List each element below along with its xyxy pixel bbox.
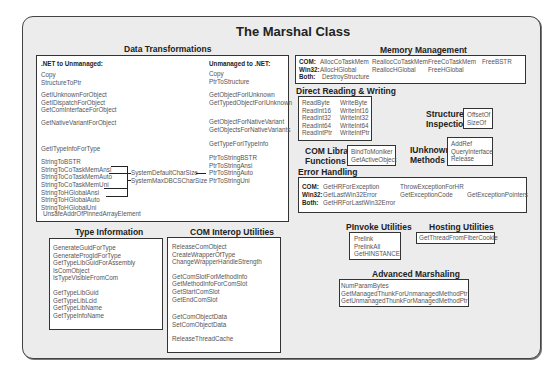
- list-item: GetTypeLibGuid: [53, 289, 135, 297]
- list-item: GetObjectForNativeVariant: [209, 118, 292, 126]
- list-item: GetTypeForITypeInfo: [209, 140, 292, 148]
- list-item: WriteIntPtr: [340, 129, 370, 137]
- list-item: Copy: [209, 70, 292, 78]
- iunknown-heading: IUnknown Methods: [410, 145, 451, 165]
- list-item: GetITypeInfoForType: [41, 145, 117, 153]
- list-item: NumParamBytes: [341, 282, 468, 290]
- hosting-heading: Hosting Utilities: [429, 222, 494, 232]
- unmanaged-to-net-list: Copy PtrToStructure GetObjectForIUnknown…: [209, 70, 292, 185]
- error-row-win32: Win32: GetLastWin32Error GetExceptionCod…: [302, 191, 528, 199]
- list-item: ReadInt64: [302, 122, 332, 130]
- pinvoke-heading: PInvoke Utilities: [346, 222, 412, 232]
- list-item: GetTypedObjectForIUnknown: [209, 99, 292, 107]
- list-item: Prelink: [354, 235, 400, 243]
- error-row-com: COM: GetHRForException ThrowExceptionFor…: [302, 183, 528, 191]
- list-item: GetIUnknownForObject: [41, 91, 117, 99]
- list-item: GetTypeLibLcid: [53, 297, 135, 305]
- list-item: IsComObject: [53, 267, 135, 275]
- list-item: Copy: [41, 71, 117, 79]
- list-item: ReadInt16: [302, 107, 332, 115]
- list-item: StringToHGlobalAuto: [41, 196, 117, 204]
- list-item: GetHINSTANCE: [354, 250, 400, 258]
- system-default-char-size: SystemDefaultCharSize: [131, 169, 198, 177]
- list-item: GetIDispatchForObject: [41, 99, 117, 107]
- list-item: SizeOf: [467, 119, 490, 127]
- list-item: GetUnmanagedThunkForManagedMethodPtr: [341, 297, 468, 305]
- list-item: PtrToStringUni: [209, 177, 292, 185]
- error-handling-heading: Error Handling: [298, 167, 358, 177]
- list-item: OffsetOf: [467, 111, 490, 119]
- net-to-unmanaged-list: Copy StructureToPtr GetIUnknownForObject…: [41, 71, 117, 211]
- unmanaged-to-net-label: Unmanaged to .NET:: [209, 60, 270, 67]
- connector-line: [111, 166, 127, 167]
- type-information-heading: Type Information: [75, 227, 143, 237]
- list-item: ReleaseComObject: [172, 243, 262, 251]
- list-item: ReadByte: [302, 99, 332, 107]
- diagram-title: The Marshal Class: [236, 24, 350, 39]
- list-item: GetTypeInfoName: [53, 312, 135, 320]
- list-item: ReadIntPtr: [302, 129, 332, 137]
- type-information-list: GenerateGuidForType GenerateProgIdForTyp…: [53, 244, 135, 319]
- list-item: PrelinkAll: [354, 243, 400, 251]
- list-item: PtrToStringAnsi: [209, 162, 292, 170]
- connector-line: [196, 173, 206, 174]
- list-item: GetStartComSlot: [172, 288, 262, 296]
- list-item: StructureToPtr: [41, 79, 117, 87]
- list-item: AddRef: [451, 140, 493, 148]
- write-list: WriteByte WriteInt16 WriteInt32 WriteInt…: [340, 99, 370, 137]
- memory-row-com: COM: AllocCoTaskMem ReallocCoTaskMem Fre…: [299, 58, 512, 66]
- memory-row-both: Both: DestroyStructure: [299, 73, 512, 81]
- list-item: PtrToStructure: [209, 78, 292, 86]
- list-item: GetNativeVariantForObject: [41, 119, 117, 127]
- list-item: GenerateGuidForType: [53, 244, 135, 252]
- iunknown-list: AddRef QueryInterface Release: [451, 140, 493, 163]
- list-item: GetObjectsForNativeVariants: [209, 126, 292, 134]
- list-item: GetComInterfaceForObject: [41, 106, 117, 114]
- list-item: GenerateProgIdForType: [53, 252, 135, 260]
- memory-row-win32: Win32: AllocHGlobal ReallocHGlobal FreeH…: [299, 66, 512, 74]
- list-item: WriteByte: [340, 99, 370, 107]
- connector-line: [104, 188, 127, 189]
- list-item: BindToMoniker: [351, 148, 397, 156]
- memory-management-rows: COM: AllocCoTaskMem ReallocCoTaskMem Fre…: [299, 58, 512, 81]
- list-item: GetThreadFromFiberCookie: [419, 234, 498, 242]
- hosting-list: GetThreadFromFiberCookie: [419, 234, 498, 242]
- list-item: UnsafeAddrOfPinnedArrayElement: [43, 210, 141, 218]
- list-item: Release: [451, 155, 493, 163]
- com-library-list: BindToMoniker GetActiveObject: [351, 148, 397, 163]
- advanced-marshaling-list: NumParamBytes GetManagedThunkForUnmanage…: [341, 282, 468, 305]
- list-item: WriteInt16: [340, 107, 370, 115]
- list-item: IsTypeVisibleFromCom: [53, 274, 135, 282]
- com-interop-heading: COM Interop Utilities: [190, 227, 274, 237]
- list-item: QueryInterface: [451, 148, 493, 156]
- list-item: PtrToStringAuto: [209, 169, 292, 177]
- list-item: GetComObjectData: [172, 313, 262, 321]
- list-item: GetEndComSlot: [172, 296, 262, 304]
- direct-rw-heading: Direct Reading & Writing: [296, 86, 396, 96]
- read-list: ReadByte ReadInt16 ReadInt32 ReadInt64 R…: [302, 99, 332, 137]
- list-item: GetComSlotForMethodInfo: [172, 273, 262, 281]
- list-item: ReleaseThreadCache: [172, 335, 262, 343]
- list-item: WriteInt64: [340, 122, 370, 130]
- connector-line: [106, 196, 127, 197]
- list-item: StringToCoTaskMemAuto: [41, 173, 117, 181]
- error-handling-rows: COM: GetHRForException ThrowExceptionFor…: [302, 183, 528, 206]
- list-item: WriteInt32: [340, 114, 370, 122]
- connector-bracket: [127, 166, 128, 197]
- connector-line: [109, 173, 127, 174]
- system-max-dbcs-char-size: SystemMaxDBCSCharSize: [131, 177, 207, 185]
- list-item: ChangeWrapperHandleStrength: [172, 258, 262, 266]
- list-item: ReadInt32: [302, 114, 332, 122]
- list-item: GetTypeLibName: [53, 304, 135, 312]
- list-item: StringToCoTaskMemAnsi: [41, 166, 117, 174]
- memory-management-heading: Memory Management: [380, 45, 467, 55]
- list-item: StringToHGlobalAnsi: [41, 189, 117, 197]
- list-item: PtrToStringBSTR: [209, 154, 292, 162]
- advanced-marshaling-heading: Advanced Marshaling: [372, 269, 460, 279]
- list-item: GetTypeLibGuidForAssembly: [53, 259, 135, 267]
- list-item: GetManagedThunkForUnmanagedMethodPtr: [341, 290, 468, 298]
- pinvoke-list: Prelink PrelinkAll GetHINSTANCE: [354, 235, 400, 258]
- net-to-unmanaged-label: .NET to Unmanaged:: [41, 60, 103, 67]
- list-item: GetActiveObject: [351, 156, 397, 164]
- list-item: StringToBSTR: [41, 158, 117, 166]
